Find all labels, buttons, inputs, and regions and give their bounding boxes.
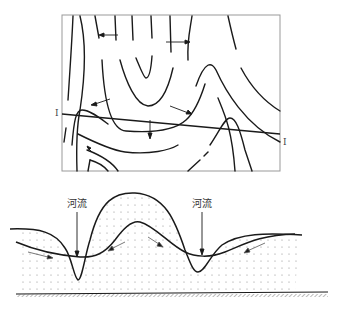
river-pointer-left: [75, 212, 79, 257]
river-left-label: 河流: [67, 199, 87, 209]
diagram: I I: [0, 0, 338, 315]
river-right-label: 河流: [192, 199, 212, 209]
bedrock-hatch: [16, 294, 328, 297]
cross-section: [0, 0, 338, 315]
river-pointer-right: [200, 212, 204, 255]
bedrock-line: [16, 292, 328, 294]
